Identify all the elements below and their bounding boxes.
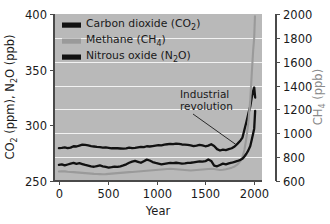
y-right-tick-label: 1000 (283, 127, 312, 141)
bottom-axis-ticks (60, 181, 255, 185)
greenhouse-gas-line-chart: 250300350400 0500100015002000 6008001000… (0, 0, 330, 224)
y-left-tick-label: 400 (25, 8, 47, 22)
x-tick-label: 0 (56, 187, 63, 201)
x-tick-label: 2000 (240, 187, 269, 201)
annotation-line-2: revolution (180, 100, 233, 112)
y-left-tick-label: 300 (25, 119, 47, 133)
x-tick-label: 1500 (191, 187, 220, 201)
y-right-tick-label: 1800 (283, 32, 312, 46)
annotation-line-1: Industrial (180, 88, 229, 100)
y-right-tick-label: 1400 (283, 80, 312, 94)
y-axis-left-title: CO2 (ppm), N2O (ppb) (3, 34, 19, 159)
x-tick-label: 500 (98, 187, 120, 201)
y-right-tick-label: 2000 (283, 8, 312, 22)
legend-swatch-3 (62, 55, 81, 60)
x-tick-label: 1000 (143, 187, 172, 201)
bottom-axis-tick-labels: 0500100015002000 (56, 187, 269, 201)
legend-swatch-2 (62, 39, 81, 44)
y-left-tick-label: 350 (25, 64, 47, 78)
y-right-tick-label: 1600 (283, 56, 312, 70)
x-axis-title: Year (145, 204, 171, 218)
y-right-tick-label: 800 (283, 151, 305, 165)
y-right-tick-label: 1200 (283, 103, 312, 117)
left-axis-tick-labels: 250300350400 (25, 8, 47, 189)
right-axis-tick-labels: 600800100012001400160018002000 (283, 8, 312, 189)
y-right-tick-label: 600 (283, 175, 305, 189)
industrial-revolution-annotation: Industrial revolution (180, 88, 233, 112)
y-left-tick-label: 250 (25, 175, 47, 189)
legend-swatch-1 (62, 23, 81, 28)
legend-label-1: Carbon dioxide (CO2) (86, 17, 200, 32)
y-axis-right-title: CH4 (ppb) (311, 69, 327, 125)
legend-label-2: Methane (CH4) (86, 33, 166, 48)
chart-figure: 250300350400 0500100015002000 6008001000… (0, 0, 330, 224)
